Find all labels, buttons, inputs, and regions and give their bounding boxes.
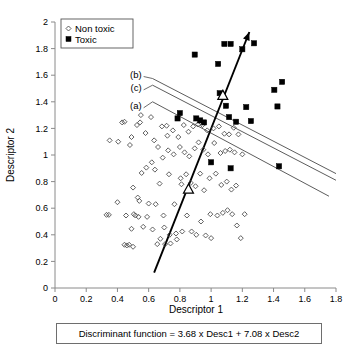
data-point-non-toxic <box>236 132 241 137</box>
data-point-non-toxic <box>137 198 142 203</box>
y-tick-label: 1.4 <box>35 97 48 107</box>
data-point-non-toxic <box>150 227 155 232</box>
data-point-toxic <box>192 52 197 57</box>
data-point-non-toxic <box>174 237 179 242</box>
data-point-non-toxic <box>218 151 223 156</box>
data-point-non-toxic <box>159 124 164 129</box>
data-point-toxic <box>201 120 206 125</box>
data-point-non-toxic <box>124 213 129 218</box>
data-point-non-toxic <box>164 123 169 128</box>
figure-container: 00.20.40.60.811.21.41.61.82 00.20.40.60.… <box>0 0 360 357</box>
data-point-toxic <box>280 79 285 84</box>
y-tick-label: 0.4 <box>35 230 48 240</box>
data-point-toxic <box>240 47 245 52</box>
data-point-non-toxic <box>127 143 132 148</box>
data-point-non-toxic <box>189 229 194 234</box>
boundary-b <box>153 79 336 174</box>
data-point-non-toxic <box>166 148 171 153</box>
data-point-non-toxic <box>166 172 171 177</box>
data-point-non-toxic <box>242 212 247 217</box>
data-point-centroid <box>183 184 193 193</box>
data-point-non-toxic <box>196 140 201 145</box>
boundary-c <box>153 85 336 180</box>
data-point-non-toxic <box>168 241 173 246</box>
data-point-non-toxic <box>155 242 160 247</box>
data-point-non-toxic <box>220 210 225 215</box>
data-point-toxic <box>228 41 233 46</box>
y-tick-label: 1.8 <box>35 44 48 54</box>
axes <box>55 22 336 288</box>
x-tick-label: 0.2 <box>80 294 93 304</box>
x-tick-label: 0.6 <box>142 294 155 304</box>
data-point-non-toxic <box>115 200 120 205</box>
data-point-non-toxic <box>141 224 146 229</box>
data-point-non-toxic <box>176 135 181 140</box>
data-point-non-toxic <box>234 223 239 228</box>
data-point-non-toxic <box>162 225 167 230</box>
data-point-toxic <box>248 118 253 123</box>
data-point-non-toxic <box>181 123 186 128</box>
data-point-non-toxic <box>207 176 212 181</box>
data-point-non-toxic <box>107 138 112 143</box>
data-point-non-toxic <box>215 213 220 218</box>
data-point-non-toxic <box>193 184 198 189</box>
data-point-non-toxic <box>161 213 166 218</box>
data-point-non-toxic <box>187 154 192 159</box>
data-point-non-toxic <box>158 236 163 241</box>
data-point-toxic <box>209 160 214 165</box>
data-point-non-toxic <box>198 219 203 224</box>
label-c: (c) <box>131 82 142 93</box>
data-point-non-toxic <box>139 170 144 175</box>
data-point-non-toxic <box>149 115 154 120</box>
caption-box: Discriminant function = 3.68 x Desc1 + 7… <box>56 323 322 344</box>
data-point-non-toxic <box>152 138 157 143</box>
data-point-non-toxic <box>152 167 157 172</box>
y-tick-label: 1.6 <box>35 70 48 80</box>
y-tick-label: 0.8 <box>35 177 48 187</box>
data-point-non-toxic <box>129 135 134 140</box>
leader-a <box>144 102 153 108</box>
data-point-non-toxic <box>222 131 227 136</box>
data-point-non-toxic <box>216 124 221 129</box>
discriminant-function-text: Discriminant function = 3.68 x Desc1 + 7… <box>79 328 300 339</box>
x-tick-label: 0.4 <box>111 294 124 304</box>
data-point-toxic <box>275 104 280 109</box>
x-axis-ticks: 00.20.40.60.811.21.41.61.8 <box>52 288 342 304</box>
data-point-non-toxic <box>186 129 191 134</box>
x-tick-label: 1.4 <box>267 294 280 304</box>
series-non-toxic-points <box>104 113 247 250</box>
data-point-non-toxic <box>156 145 161 150</box>
data-point-non-toxic <box>116 139 121 144</box>
data-point-non-toxic <box>184 213 189 218</box>
data-point-toxic <box>226 114 231 119</box>
x-tick-label: 1.2 <box>236 294 249 304</box>
data-point-non-toxic <box>149 160 154 165</box>
data-point-non-toxic <box>205 152 210 157</box>
y-tick-label: 1.2 <box>35 124 48 134</box>
x-tick-label: 1.6 <box>299 294 312 304</box>
label-b: (b) <box>130 69 142 80</box>
y-tick-label: 0.2 <box>35 257 48 267</box>
legend-label-toxic: Toxic <box>75 34 97 45</box>
data-point-non-toxic <box>213 171 218 176</box>
data-point-non-toxic <box>234 183 239 188</box>
data-point-toxic <box>228 166 233 171</box>
leader-c <box>144 85 153 90</box>
data-point-toxic <box>177 111 182 116</box>
data-point-non-toxic <box>160 155 165 160</box>
data-point-toxic <box>222 41 227 46</box>
x-tick-label: 0 <box>52 294 57 304</box>
data-point-non-toxic <box>240 152 245 157</box>
x-tick-label: 1 <box>209 294 214 304</box>
data-point-non-toxic <box>180 229 185 234</box>
boundary-line-labels: (b)(c)(a) <box>130 69 153 111</box>
data-point-non-toxic <box>178 176 183 181</box>
data-point-non-toxic <box>146 201 151 206</box>
data-point-non-toxic <box>179 182 184 187</box>
data-point-non-toxic <box>192 146 197 151</box>
data-point-toxic <box>233 119 238 124</box>
data-point-non-toxic <box>143 131 148 136</box>
data-point-non-toxic <box>144 165 149 170</box>
data-point-non-toxic <box>135 195 140 200</box>
data-point-toxic <box>223 103 228 108</box>
